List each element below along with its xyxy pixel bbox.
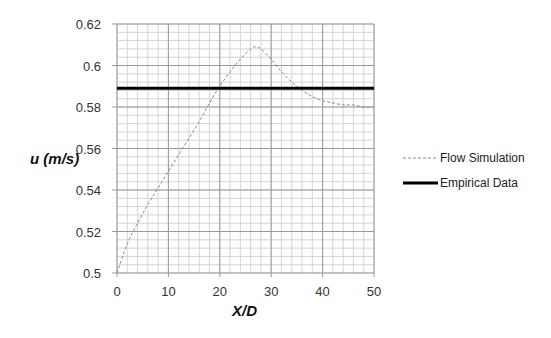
major-grid	[112, 24, 374, 277]
x-tick-label: 50	[367, 284, 381, 299]
flow-simulation-line	[117, 47, 374, 273]
x-tick-label: 40	[315, 284, 329, 299]
y-axis-ticks: 0.50.520.540.560.580.60.62	[76, 17, 101, 281]
y-tick-label: 0.6	[83, 59, 101, 74]
x-tick-label: 0	[113, 284, 120, 299]
y-tick-label: 0.62	[76, 17, 101, 32]
legend-empirical-data-label: Empirical Data	[440, 176, 518, 190]
x-tick-label: 30	[264, 284, 278, 299]
x-axis-ticks: 01020304050	[113, 284, 381, 299]
y-tick-label: 0.56	[76, 142, 101, 157]
y-tick-label: 0.5	[83, 266, 101, 281]
y-axis-title: u (m/s)	[30, 150, 79, 167]
y-tick-label: 0.52	[76, 225, 101, 240]
line-chart: 0.50.520.540.560.580.60.62 01020304050 u…	[0, 0, 551, 338]
x-tick-label: 20	[213, 284, 227, 299]
y-tick-label: 0.54	[76, 183, 101, 198]
y-tick-label: 0.58	[76, 100, 101, 115]
legend-flow-simulation-label: Flow Simulation	[440, 151, 525, 165]
x-tick-label: 10	[161, 284, 175, 299]
legend: Flow Simulation Empirical Data	[403, 151, 525, 190]
x-axis-title: X/D	[231, 302, 257, 319]
